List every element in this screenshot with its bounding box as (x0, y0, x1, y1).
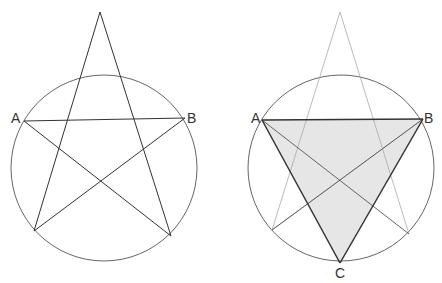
left-diagram: A B (11, 12, 197, 261)
left-pentagram (24, 12, 185, 236)
right-label-b: B (424, 110, 433, 126)
right-label-a: A (251, 110, 261, 126)
right-label-c: C (335, 265, 345, 281)
geometry-figure: A B A B C (0, 0, 442, 283)
left-label-a: A (11, 110, 21, 126)
left-label-b: B (187, 110, 196, 126)
left-circle (11, 75, 197, 261)
right-diagram: A B C (248, 12, 434, 281)
